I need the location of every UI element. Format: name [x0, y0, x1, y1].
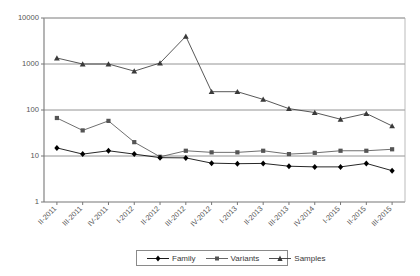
x-tick-label: IV-2014 [292, 204, 316, 228]
legend-item-family: Family [147, 254, 196, 263]
data-point-triangle [183, 34, 189, 39]
data-point-triangle [54, 55, 60, 60]
x-tick-label: I-2012 [114, 204, 135, 225]
x-tick-label: III-2012 [163, 204, 187, 228]
gridlines [44, 18, 405, 156]
x-axis-tick-labels: II-2011III-2011IV-2011I-2012II-2012III-2… [36, 204, 393, 228]
line-chart: 110100100010000 II-2011III-2011IV-2011I-… [0, 0, 420, 276]
x-tick-label: IV-2011 [86, 204, 110, 228]
data-point-diamond [312, 164, 317, 170]
series-samples [54, 34, 395, 129]
chart-axes [41, 18, 405, 205]
y-axis-tick-labels: 110100100010000 [18, 13, 39, 206]
x-tick-label: II-2011 [36, 204, 58, 226]
data-series-layer [54, 34, 395, 174]
data-point-square [184, 149, 188, 153]
x-tick-label: II-2012 [139, 204, 162, 227]
data-point-square [81, 128, 85, 132]
y-tick-label: 10000 [18, 13, 39, 22]
data-point-square [390, 147, 394, 151]
legend-item-variants: Variants [206, 254, 260, 263]
data-point-square [261, 149, 265, 153]
x-tick-label: II-2013 [242, 204, 265, 227]
data-point-square [338, 149, 342, 153]
legend-item-samples: Samples [269, 254, 325, 263]
data-point-triangle [389, 123, 395, 128]
y-tick-label: 100 [26, 105, 39, 114]
data-point-square [287, 152, 291, 156]
y-tick-label: 1 [35, 197, 39, 206]
series-variants [55, 116, 394, 159]
data-point-square [132, 140, 136, 144]
data-point-diamond [390, 168, 395, 174]
x-tick-label: IV-2012 [189, 204, 213, 228]
data-point-triangle [286, 106, 292, 111]
x-tick-label: III-2011 [60, 204, 84, 228]
x-tick-label: II-2015 [345, 204, 368, 227]
data-point-diamond [364, 160, 369, 166]
data-point-diamond [261, 160, 266, 166]
legend-marker-triangle-icon [269, 254, 291, 263]
data-point-square [364, 149, 368, 153]
data-point-square [235, 150, 239, 154]
y-tick-label: 10 [31, 151, 39, 160]
x-tick-label: I-2015 [321, 204, 342, 225]
chart-legend: Family Variants Samples [136, 250, 288, 266]
legend-marker-square-icon [206, 254, 228, 263]
series-family [54, 145, 394, 174]
data-point-diamond [209, 160, 214, 166]
data-point-square [106, 119, 110, 123]
legend-label-samples: Samples [294, 254, 325, 263]
y-tick-label: 1000 [22, 59, 39, 68]
data-point-square [210, 150, 214, 154]
data-point-diamond [54, 145, 59, 151]
data-point-square [313, 151, 317, 155]
legend-marker-diamond-icon [147, 254, 169, 263]
data-point-diamond [338, 164, 343, 170]
x-tick-label: III-2015 [369, 204, 393, 228]
data-point-diamond [286, 163, 291, 169]
data-point-diamond [106, 148, 111, 154]
legend-label-family: Family [172, 254, 196, 263]
legend-label-variants: Variants [231, 254, 260, 263]
series-line [57, 36, 392, 126]
x-tick-label: III-2013 [266, 204, 290, 228]
x-tick-label: I-2013 [218, 204, 239, 225]
chart-container: 110100100010000 II-2011III-2011IV-2011I-… [0, 0, 420, 276]
data-point-triangle [363, 111, 369, 116]
data-point-diamond [235, 161, 240, 167]
data-point-square [55, 116, 59, 120]
